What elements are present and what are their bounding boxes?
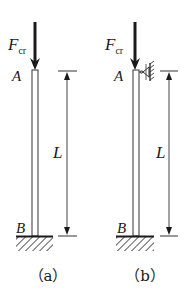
fixed-support-icon — [116, 237, 154, 252]
point-a-label: A — [11, 68, 22, 84]
panel-b: Fcr A B — [104, 22, 178, 285]
caption-b: （b） — [125, 267, 165, 285]
force-label: Fcr — [7, 35, 27, 56]
length-label: L — [155, 143, 165, 162]
point-a-label: A — [113, 68, 124, 84]
caption-a: （a） — [29, 267, 68, 285]
column — [133, 70, 139, 236]
point-b-label: B — [117, 220, 126, 236]
fixed-support-icon — [16, 237, 53, 252]
roller-support-icon — [139, 61, 154, 81]
force-label: Fcr — [104, 35, 124, 56]
column-buckling-diagram: Fcr A B L （a） Fcr A B — [0, 0, 187, 291]
force-arrow-icon — [130, 22, 140, 70]
length-label: L — [52, 143, 62, 162]
column — [32, 70, 38, 236]
panel-a: Fcr A B L （a） — [7, 22, 77, 285]
force-arrow-icon — [30, 22, 40, 70]
point-b-label: B — [16, 220, 25, 236]
